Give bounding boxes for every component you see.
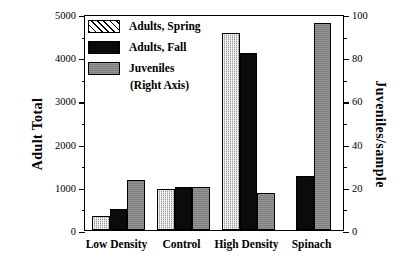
x-axis-label: Spinach — [292, 238, 332, 250]
bar[interactable] — [157, 189, 175, 230]
bar[interactable] — [257, 193, 275, 230]
tick-label: 0 — [71, 227, 76, 238]
tick-label: 80 — [352, 54, 363, 65]
tick-label: 4000 — [55, 54, 76, 65]
legend-label: Adults, Spring — [129, 20, 201, 32]
tick-label: 40 — [352, 140, 363, 151]
legend-swatch-icon — [88, 41, 120, 54]
right-axis-title: Juveniles/sample — [372, 80, 388, 188]
bar[interactable] — [314, 23, 332, 230]
bar[interactable] — [92, 216, 110, 230]
left-axis-title: Adult Total — [30, 97, 46, 170]
legend-sublabel: (Right Axis) — [130, 79, 201, 91]
tick-label: 1000 — [55, 184, 76, 195]
tick-label: 20 — [352, 184, 363, 195]
legend: Adults, SpringAdults, FallJuveniles(Righ… — [88, 18, 201, 91]
bar[interactable] — [127, 180, 145, 230]
bar[interactable] — [222, 33, 240, 230]
legend-item[interactable]: Juveniles — [88, 60, 201, 76]
x-axis-label: Low Density — [86, 238, 148, 250]
figure: Adult Total Juveniles/sample 01000200030… — [0, 0, 420, 267]
bar-group — [215, 16, 280, 230]
tick-label: 100 — [352, 11, 368, 22]
x-axis-label: High Density — [214, 238, 278, 250]
tick-label: 0 — [352, 227, 357, 238]
bar[interactable] — [240, 53, 258, 230]
tick-label: 3000 — [55, 97, 76, 108]
bar[interactable] — [296, 176, 314, 230]
legend-item[interactable]: Adults, Spring — [88, 18, 201, 34]
tick-label: 5000 — [55, 11, 76, 22]
bar-group — [280, 16, 345, 230]
tick-major — [343, 232, 349, 233]
bar[interactable] — [110, 209, 128, 230]
legend-label: Adults, Fall — [129, 41, 187, 53]
legend-item[interactable]: Adults, Fall — [88, 39, 201, 55]
bar[interactable] — [175, 187, 193, 230]
tick-label: 60 — [352, 97, 363, 108]
legend-label: Juveniles — [129, 62, 174, 74]
x-axis-label: Control — [162, 238, 200, 250]
bar[interactable] — [192, 187, 210, 230]
tick-label: 2000 — [55, 140, 76, 151]
legend-swatch-icon — [88, 20, 120, 33]
legend-swatch-icon — [88, 62, 120, 75]
tick-major — [79, 232, 85, 233]
